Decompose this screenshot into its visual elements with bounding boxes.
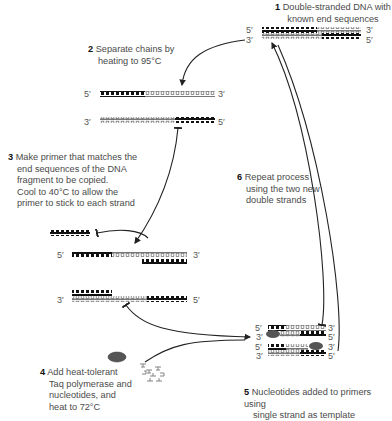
new-double-strand-2	[268, 342, 326, 356]
pcr-diagram-graphics	[0, 0, 392, 421]
new-double-strand-1	[266, 325, 326, 338]
arrow-repeat-1	[272, 43, 324, 325]
primer	[50, 230, 90, 236]
arrow-step3-to-5	[126, 305, 250, 337]
taq-polymerase-icon	[108, 352, 126, 362]
separated-strands	[100, 91, 215, 123]
primed-strand-top	[72, 252, 187, 264]
taq-polymerase-icon	[309, 342, 323, 350]
taq-polymerase-icon	[266, 330, 280, 338]
arrow-step4-to-5	[145, 340, 245, 362]
free-nucleotides-icon	[140, 364, 164, 381]
primed-strand-bottom	[72, 290, 187, 302]
arrow-step1-to-2	[182, 40, 245, 85]
arrow-step2-to-3	[135, 128, 178, 243]
process-arrows	[97, 40, 339, 362]
arrow-repeat-2	[278, 45, 339, 351]
original-dna-double-strand	[262, 27, 361, 39]
